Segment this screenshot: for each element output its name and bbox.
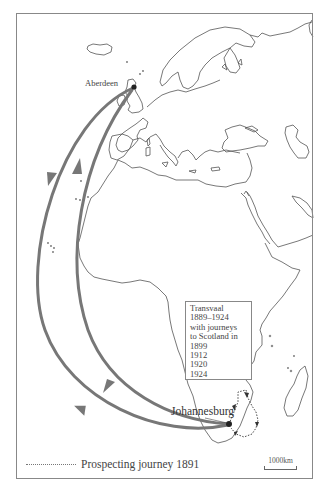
scale-bar: 1000km xyxy=(264,456,297,470)
transvaal-info-box: Transvaal 1889–1924 with journeys to Sco… xyxy=(185,301,252,380)
scale-bar-graphic xyxy=(264,466,297,470)
map-frame xyxy=(16,13,313,479)
aberdeen-label: Aberdeen xyxy=(85,79,118,88)
legend: Prospecting journey 1891 xyxy=(26,457,199,471)
johannesburg-label: Johannesburg xyxy=(171,406,234,418)
info-line: 1924 xyxy=(190,370,251,379)
scale-label: 1000km xyxy=(264,456,297,465)
legend-label: Prospecting journey 1891 xyxy=(81,458,199,470)
dotted-line-legend-icon xyxy=(26,464,76,465)
